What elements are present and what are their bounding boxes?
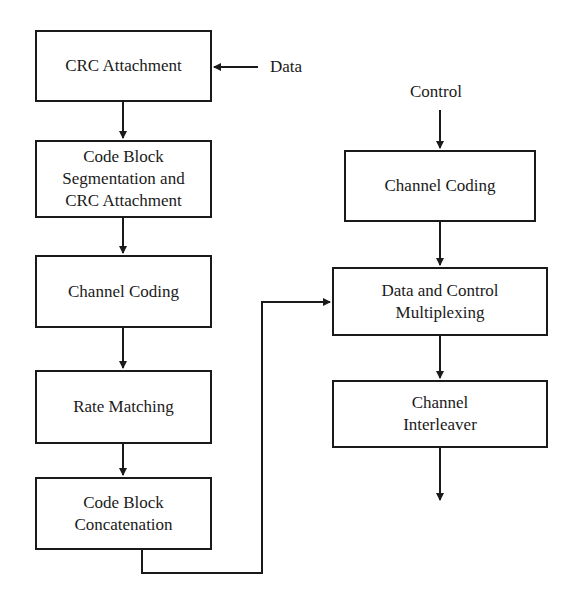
crc-attachment-box: CRC Attachment [35,30,212,102]
crc-attachment-label: CRC Attachment [65,55,182,77]
channel-coding-data-label: Channel Coding [68,281,179,303]
data-control-multiplexing-box: Data and Control Multiplexing [332,267,548,336]
code-block-concatenation-label: Code Block Concatenation [67,492,180,536]
rate-matching-box: Rate Matching [35,370,212,444]
channel-coding-control-label: Channel Coding [385,175,496,197]
data-input-label: Data [270,57,302,77]
rate-matching-label: Rate Matching [73,396,174,418]
channel-interleaver-label: Channel Interleaver [394,392,486,436]
channel-coding-data-box: Channel Coding [35,255,212,328]
code-block-segmentation-box: Code Block Segmentation and CRC Attachme… [35,140,212,218]
channel-interleaver-box: Channel Interleaver [332,380,548,448]
control-input-label: Control [410,82,462,102]
code-block-segmentation-label: Code Block Segmentation and CRC Attachme… [47,146,200,212]
code-block-concatenation-box: Code Block Concatenation [35,477,212,550]
channel-coding-control-box: Channel Coding [344,150,536,222]
data-control-multiplexing-label: Data and Control Multiplexing [354,280,526,324]
